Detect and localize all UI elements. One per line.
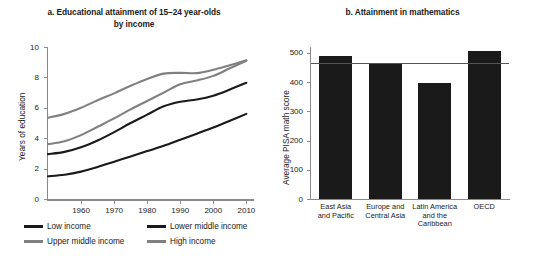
panel-a-series-line (48, 60, 246, 117)
panel-a-x-tick-label: 2000 (204, 206, 222, 215)
panel-a-x-tick-label: 1960 (72, 206, 90, 215)
reference-line (311, 63, 509, 64)
panel-a-x-tick-label: 2010 (237, 206, 255, 215)
bar (418, 83, 451, 199)
legend-label: Lower middle income (170, 222, 247, 231)
panel-a-line-chart: a. Educational attainment of 15–24 year-… (0, 0, 268, 269)
panel-a-series-line (48, 114, 246, 176)
panel-b-y-tick-label: 400 (290, 78, 303, 87)
panel-a-title: a. Educational attainment of 15–24 year-… (0, 7, 268, 30)
panel-a-x-tick (114, 201, 115, 205)
legend-item[interactable]: High income (147, 237, 216, 246)
legend-swatch (147, 240, 166, 242)
panel-b-y-tick-label: 300 (290, 107, 303, 116)
panel-a-y-tick-label: 4 (35, 134, 39, 143)
panel-a-x-tick-label: 1990 (171, 206, 189, 215)
legend-item[interactable]: Lower middle income (147, 222, 247, 231)
panel-a-x-tick-label: 1980 (138, 206, 156, 215)
panel-a-series-line (48, 83, 246, 154)
panel-a-title-line2: by income (0, 19, 268, 31)
panel-b-y-tick-label: 0 (299, 195, 303, 204)
panel-b-category-label: OECD (456, 203, 514, 212)
panel-a-x-tick (213, 201, 214, 205)
legend-label: Low income (47, 222, 91, 231)
panel-a-x-tick-label: 1970 (105, 206, 123, 215)
legend-swatch (147, 225, 166, 227)
legend-label: Upper middle income (47, 237, 124, 246)
panel-a-x-tick (81, 201, 82, 205)
bar (319, 56, 352, 199)
panel-a-x-tick (180, 201, 181, 205)
legend-swatch (24, 225, 43, 227)
legend-swatch (24, 240, 43, 242)
legend-item[interactable]: Upper middle income (24, 237, 124, 246)
panel-b-plot-area (311, 47, 509, 199)
panel-a-y-tick-label: 0 (35, 195, 39, 204)
panel-a-y-tick-label: 8 (35, 73, 39, 82)
panel-b-y-tick-label: 200 (290, 136, 303, 145)
panel-a-x-axis-line (47, 199, 254, 201)
panel-a-x-tick (246, 201, 247, 205)
panel-b-y-tick-label: 100 (290, 165, 303, 174)
panel-b-x-axis-line (310, 199, 510, 200)
panel-b-bar-chart: b. Attainment in mathematics Average PIS… (268, 0, 537, 269)
panel-a-series-line (48, 61, 246, 145)
panel-a-y-axis-title: Years of education (18, 93, 27, 161)
legend-label: High income (170, 237, 216, 246)
figure-container: a. Educational attainment of 15–24 year-… (0, 0, 537, 269)
bar (468, 51, 501, 199)
panel-a-y-tick-label: 2 (35, 164, 39, 173)
legend-item[interactable]: Low income (24, 222, 91, 231)
panel-a-legend: Low incomeLower middle incomeUpper middl… (24, 222, 264, 252)
panel-a-y-tick-label: 10 (30, 43, 39, 52)
panel-a-lines (48, 47, 253, 199)
bar (369, 64, 402, 199)
panel-a-y-tick-label: 6 (35, 103, 39, 112)
panel-b-y-tick-label: 500 (290, 48, 303, 57)
panel-a-x-tick (147, 201, 148, 205)
panel-a-plot-area (48, 47, 253, 199)
panel-b-title: b. Attainment in mathematics (268, 7, 537, 19)
panel-a-title-line1: a. Educational attainment of 15–24 year-… (0, 7, 268, 19)
